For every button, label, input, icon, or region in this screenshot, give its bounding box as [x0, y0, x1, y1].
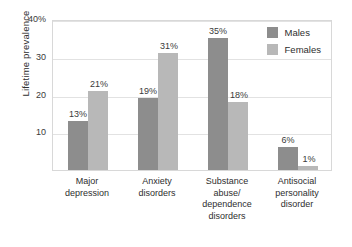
bar-females-1[interactable]: 31% — [158, 53, 178, 170]
y-axis-tick-10: 10 — [6, 127, 46, 137]
bar-value-label: 1% — [302, 154, 315, 164]
legend-swatch-males-icon — [267, 27, 278, 38]
x-axis-label-line: Anxiety — [121, 176, 193, 188]
x-axis-label-1: Anxietydisorders — [121, 176, 193, 199]
x-axis-label-line: Antisocial — [261, 176, 333, 188]
bar-value-label: 35% — [209, 26, 227, 36]
bar-value-label: 19% — [139, 86, 157, 96]
x-axis-label-line: depression — [51, 188, 123, 200]
bar-males-0[interactable]: 13% — [68, 121, 88, 170]
bar-value-label: 6% — [281, 135, 294, 145]
legend-swatch-females-icon — [267, 44, 278, 55]
bar-group: 35%18% — [208, 21, 248, 170]
bar-females-0[interactable]: 21% — [88, 91, 108, 170]
x-axis-label-0: Majordepression — [51, 176, 123, 199]
y-axis-tick-40: 40% — [6, 14, 46, 24]
y-axis-tick-30: 30 — [6, 52, 46, 62]
legend-item-males[interactable]: Males — [267, 27, 321, 38]
bar-value-label: 31% — [160, 41, 178, 51]
x-axis-label-line: dependence — [191, 199, 263, 211]
y-axis-tick-20: 20 — [6, 90, 46, 100]
x-axis-label-line: disorder — [261, 199, 333, 211]
legend-label-males: Males — [285, 27, 310, 38]
bar-group: 19%31% — [138, 21, 178, 170]
bar-value-label: 21% — [90, 79, 108, 89]
bar-value-label: 18% — [230, 90, 248, 100]
bar-value-label: 13% — [69, 109, 87, 119]
bar-males-1[interactable]: 19% — [138, 98, 158, 170]
x-axis-label-line: disorders — [121, 188, 193, 200]
x-axis-label-line: Major — [51, 176, 123, 188]
legend-item-females[interactable]: Females — [267, 44, 321, 55]
x-axis-label-2: Substanceabuse/dependencedisorders — [191, 176, 263, 222]
x-axis-label-3: Antisocialpersonalitydisorder — [261, 176, 333, 211]
plot-area: 13%21%19%31%35%18%6%1% Males Females — [52, 20, 332, 171]
x-axis-label-line: disorders — [191, 211, 263, 223]
bar-group: 13%21% — [68, 21, 108, 170]
bar-females-3[interactable]: 1% — [298, 166, 318, 170]
bar-males-2[interactable]: 35% — [208, 38, 228, 170]
bar-males-3[interactable]: 6% — [278, 147, 298, 170]
legend-label-females: Females — [285, 44, 321, 55]
legend: Males Females — [267, 27, 321, 55]
x-axis-label-line: personality — [261, 188, 333, 200]
bar-chart: Lifetime prevalence 40%302010 13%21%19%3… — [0, 0, 352, 247]
x-axis-category-labels: MajordepressionAnxietydisordersSubstance… — [52, 176, 332, 246]
x-axis-label-line: abuse/ — [191, 188, 263, 200]
x-axis-label-line: Substance — [191, 176, 263, 188]
bar-females-2[interactable]: 18% — [228, 102, 248, 170]
